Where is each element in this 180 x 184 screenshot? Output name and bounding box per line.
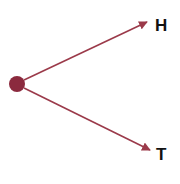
branch-arrow-tails: [24, 88, 150, 150]
tree-diagram: H T: [0, 0, 180, 184]
diagram-svg: [0, 0, 180, 184]
label-tails: T: [156, 146, 166, 163]
branch-arrow-heads: [24, 22, 147, 80]
label-heads: H: [155, 17, 167, 34]
root-node: [9, 76, 25, 92]
